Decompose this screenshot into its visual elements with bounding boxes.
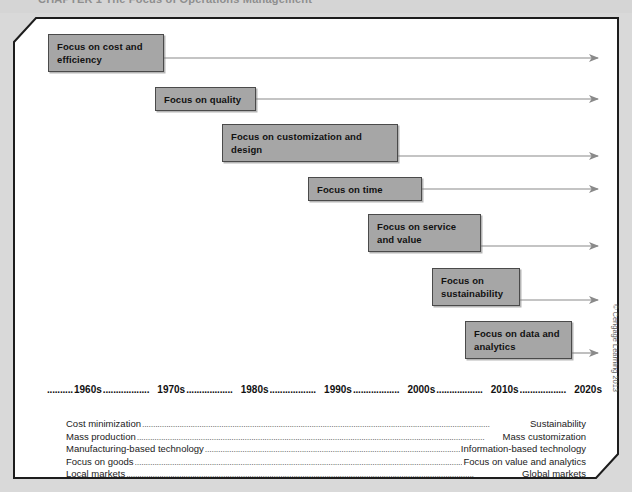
comparison-left-label: Manufacturing-based technology [66,443,204,456]
timeline-box-3: Focus on customization and design [222,124,398,162]
decade-label-2020s: 2020s [574,384,602,395]
decade-leader-2: .................. [186,384,240,395]
comparison-row: Mass production.........................… [66,431,586,444]
timeline-box-7: Focus on data and analytics [465,321,572,359]
comparison-row: Focus on goods..........................… [66,456,586,469]
timeline-box-1: Focus on cost and efficiency [48,34,164,72]
comparison-right-label: Mass customization [503,431,586,444]
decade-label-1970s: 1970s [157,384,185,395]
comparison-left-label: Mass production [66,431,136,444]
exhibit-page: CHAPTER 1 The Focus of Operations Manage… [0,0,632,492]
comparison-leader-dots: ........................................… [126,468,521,481]
comparison-right-label: Sustainability [530,418,586,431]
comparison-row: Local markets...........................… [66,468,586,481]
decade-leader-0: .................. [47,384,73,395]
decade-label-1980s: 1980s [241,384,269,395]
decade-leader-4: .................. [353,384,407,395]
comparison-left-label: Focus on goods [66,456,134,469]
timeline-box-2: Focus on quality [155,87,256,111]
decade-label-2000s: 2000s [407,384,435,395]
comparison-row: Cost minimization.......................… [66,418,586,431]
comparison-leader-dots: ........................................… [142,418,529,431]
comparison-leader-dots: ........................................… [205,443,460,456]
timeline-box-5: Focus on service and value [368,214,481,252]
comparison-left-label: Cost minimization [66,418,141,431]
comparison-leader-dots: ........................................… [135,456,463,469]
exhibit-frame: Focus on cost and efficiencyFocus on qua… [10,14,622,482]
comparison-row: Manufacturing-based technology..........… [66,443,586,456]
comparison-right-label: Global markets [522,468,586,481]
decade-label-1990s: 1990s [324,384,352,395]
comparison-leader-dots: ........................................… [137,431,502,444]
decade-label-1960s: 1960s [74,384,102,395]
timeline-box-4: Focus on time [308,177,422,201]
frame-outline-icon [10,14,622,482]
decade-leader-1: .................. [103,384,157,395]
decade-axis: ..................1960s.................… [46,384,602,395]
comparison-left-label: Local markets [66,468,125,481]
comparison-right-label: Information-based technology [461,443,586,456]
decade-leader-6: .................. [520,384,574,395]
decade-leader-3: .................. [270,384,324,395]
timeline-box-6: Focus on sustainability [432,268,520,306]
decade-leader-5: .................. [436,384,490,395]
chapter-header-strip: CHAPTER 1 The Focus of Operations Manage… [0,0,632,13]
decade-label-2010s: 2010s [491,384,519,395]
copyright-credit: © Cengage Learning 2013 [611,304,620,392]
comparison-rows: Cost minimization.......................… [66,418,586,481]
chapter-title: CHAPTER 1 The Focus of Operations Manage… [38,0,312,5]
comparison-right-label: Focus on value and analytics [463,456,586,469]
